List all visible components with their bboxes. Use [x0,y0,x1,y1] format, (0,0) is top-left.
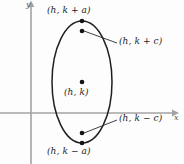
label-focus-top: (h, k + c) [119,37,162,46]
x-axis-label: x [174,114,179,122]
point-focus-top [80,29,85,34]
y-axis [28,1,35,164]
point-vertex-bottom [80,141,85,146]
point-focus-bottom [80,131,85,136]
label-center: (h, k) [64,88,89,97]
point-vertex-top [80,19,85,24]
label-focus-bottom: (h, k − c) [119,114,162,123]
label-vertex-top: (h, k + a) [47,6,91,15]
label-vertex-bottom: (h, k − a) [47,147,91,156]
ellipse-diagram: (h, k + a) (h, k + c) (h, k) (h, k − c) … [0,0,184,164]
point-center [80,80,85,85]
y-axis-label: y [26,1,31,9]
diagram-canvas [0,0,184,164]
